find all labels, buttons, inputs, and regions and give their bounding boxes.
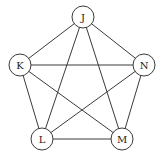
node-j-label: J: [80, 12, 85, 23]
edge-j-k: [20, 17, 83, 65]
edges-group: [20, 17, 144, 139]
nodes-group: J K N L M: [9, 6, 155, 150]
node-j: J: [72, 6, 94, 28]
edge-n-l: [42, 65, 144, 139]
edge-k-m: [20, 65, 122, 139]
node-l-label: L: [39, 134, 46, 145]
edge-k-l: [20, 65, 42, 139]
node-m: M: [111, 128, 133, 150]
edge-j-m: [83, 17, 122, 139]
node-n-label: N: [140, 60, 149, 71]
edge-j-n: [83, 17, 144, 65]
node-l: L: [31, 128, 53, 150]
graph-diagram: J K N L M: [0, 0, 166, 160]
edge-n-m: [122, 65, 144, 139]
node-m-label: M: [117, 134, 127, 145]
edge-j-l: [42, 17, 83, 139]
node-k-label: K: [16, 60, 24, 71]
node-n: N: [133, 54, 155, 76]
node-k: K: [9, 54, 31, 76]
